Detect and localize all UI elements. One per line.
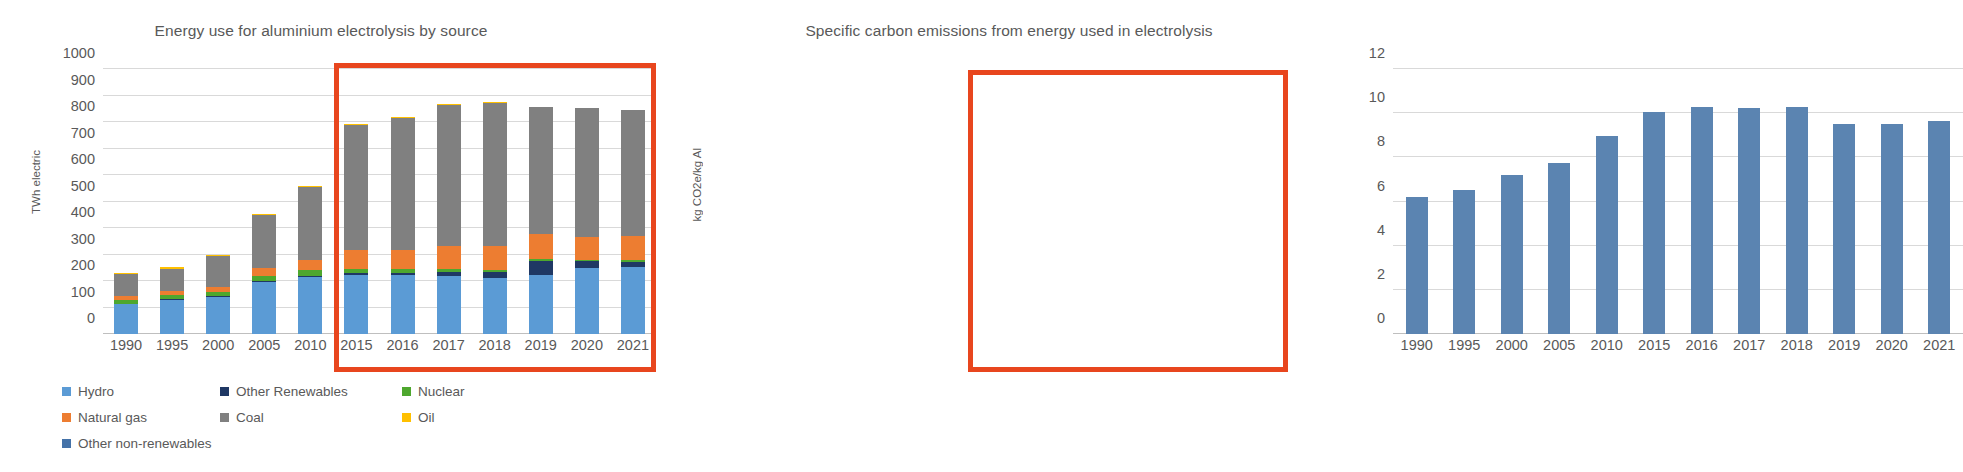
plot-area-right: 024681012: [1393, 69, 1963, 334]
bar-slot: [1393, 69, 1441, 334]
highlight-box-left: [334, 63, 656, 372]
bar-segment: [252, 282, 276, 334]
bar[interactable]: [1881, 124, 1903, 334]
bar-slot: [195, 69, 241, 334]
x-tick-label-right: 1990: [1393, 337, 1441, 353]
y-tick-label-left: 0: [87, 310, 95, 326]
x-tick-label-left: 1990: [103, 337, 149, 353]
y-tick-label-left: 300: [71, 231, 95, 247]
stacked-bar[interactable]: [114, 273, 138, 334]
bar-group-right: [1393, 69, 1963, 334]
bar-slot: [1441, 69, 1489, 334]
bar-slot: [1773, 69, 1821, 334]
bar[interactable]: [1691, 107, 1713, 334]
legend-row: Natural gasCoalOil: [62, 410, 662, 425]
y-tick-label-left: 600: [71, 151, 95, 167]
bar[interactable]: [1453, 190, 1475, 334]
legend-label: Oil: [418, 410, 435, 425]
legend-swatch-icon: [402, 387, 411, 396]
bar[interactable]: [1738, 108, 1760, 334]
bar-slot: [1536, 69, 1584, 334]
x-axis-labels-right: 1990199520002005201020152016201720182019…: [1393, 337, 1963, 353]
y-axis-label-right: kg CO2e/kg Al: [691, 148, 703, 222]
bar[interactable]: [1786, 107, 1808, 334]
x-tick-label-left: 2000: [195, 337, 241, 353]
bar-slot: [1916, 69, 1963, 334]
bar[interactable]: [1928, 121, 1950, 334]
bar-segment: [114, 274, 138, 296]
x-tick-label-right: 1995: [1441, 337, 1489, 353]
legend-row: HydroOther RenewablesNuclear: [62, 384, 662, 399]
bar-segment: [298, 260, 322, 270]
x-tick-label-right: 2000: [1488, 337, 1536, 353]
bar-segment: [206, 297, 230, 334]
bar[interactable]: [1406, 197, 1428, 334]
x-tick-label-right: 2015: [1631, 337, 1679, 353]
legend-label: Nuclear: [418, 384, 465, 399]
legend-swatch-icon: [62, 439, 71, 448]
legend-item-nuclear[interactable]: Nuclear: [402, 384, 552, 399]
bar-slot: [1583, 69, 1631, 334]
y-tick-label-right: 6: [1377, 178, 1385, 194]
bar-segment: [160, 269, 184, 291]
y-axis-label-left: TWh electric: [30, 150, 42, 214]
stacked-bar[interactable]: [206, 255, 230, 334]
chart-title-right: Specific carbon emissions from energy us…: [676, 22, 1342, 40]
legend-label: Other Renewables: [236, 384, 348, 399]
bar-slot: [1726, 69, 1774, 334]
y-tick-label-left: 100: [71, 284, 95, 300]
bar-slot: [1868, 69, 1916, 334]
legend-swatch-icon: [220, 387, 229, 396]
y-tick-label-left: 500: [71, 178, 95, 194]
x-tick-label-right: 2005: [1536, 337, 1584, 353]
legend-item-coal[interactable]: Coal: [220, 410, 402, 425]
x-tick-label-right: 2016: [1678, 337, 1726, 353]
y-tick-label-left: 900: [71, 72, 95, 88]
bar[interactable]: [1548, 163, 1570, 334]
bar-slot: [1821, 69, 1869, 334]
bar[interactable]: [1833, 124, 1855, 334]
x-tick-label-left: 2005: [241, 337, 287, 353]
bar-slot: [241, 69, 287, 334]
legend-item-other-non-renewables[interactable]: Other non-renewables: [62, 436, 220, 451]
legend-swatch-icon: [62, 413, 71, 422]
bar-segment: [298, 187, 322, 260]
y-tick-label-left: 200: [71, 257, 95, 273]
legend-item-other-renewables[interactable]: Other Renewables: [220, 384, 402, 399]
y-tick-label-right: 2: [1377, 266, 1385, 282]
x-tick-label-left: 2010: [287, 337, 333, 353]
stacked-bar[interactable]: [160, 267, 184, 334]
legend-label: Hydro: [78, 384, 114, 399]
x-tick-label-right: 2018: [1773, 337, 1821, 353]
legend: HydroOther RenewablesNuclearNatural gasC…: [62, 384, 662, 462]
y-tick-label-right: 12: [1369, 45, 1385, 61]
x-tick-label-right: 2019: [1821, 337, 1869, 353]
bar-segment: [298, 277, 322, 334]
stacked-bar[interactable]: [298, 186, 322, 334]
legend-item-natural-gas[interactable]: Natural gas: [62, 410, 220, 425]
y-tick-label-right: 10: [1369, 89, 1385, 105]
bar-slot: [1631, 69, 1679, 334]
y-tick-label-left: 800: [71, 98, 95, 114]
bar-segment: [252, 268, 276, 276]
y-tick-label-left: 1000: [63, 45, 95, 61]
y-tick-label-right: 4: [1377, 222, 1385, 238]
legend-row: Other non-renewables: [62, 436, 662, 451]
bar[interactable]: [1501, 175, 1523, 334]
chart-title-left: Energy use for aluminium electrolysis by…: [0, 22, 654, 40]
bar-slot: [287, 69, 333, 334]
bar[interactable]: [1643, 112, 1665, 334]
legend-label: Other non-renewables: [78, 436, 212, 451]
bar-segment: [114, 304, 138, 334]
x-tick-label-right: 2017: [1726, 337, 1774, 353]
bar[interactable]: [1596, 136, 1618, 334]
bar-slot: [1488, 69, 1536, 334]
y-tick-label-right: 0: [1377, 310, 1385, 326]
x-tick-label-right: 2020: [1868, 337, 1916, 353]
y-tick-label-left: 400: [71, 204, 95, 220]
legend-item-oil[interactable]: Oil: [402, 410, 552, 425]
legend-item-hydro[interactable]: Hydro: [62, 384, 220, 399]
x-tick-label-right: 2010: [1583, 337, 1631, 353]
stacked-bar[interactable]: [252, 214, 276, 334]
y-tick-label-right: 8: [1377, 133, 1385, 149]
